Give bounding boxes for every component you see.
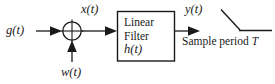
label-input-signal: g(t) (6, 24, 24, 37)
arrowhead-input-g (50, 26, 62, 36)
sampling-switch-arm (221, 10, 240, 31)
filter-block-line3: h(t) (124, 43, 154, 57)
block-diagram: g(t) x(t) w(t) y(t) Linear Filter h(t) S… (0, 0, 275, 84)
label-sample-period-symbol: T (252, 35, 258, 47)
label-filter-input: x(t) (81, 3, 98, 16)
label-noise: w(t) (61, 66, 81, 79)
label-filter-output: y(t) (185, 3, 202, 16)
label-sample-period-text: Sample period (182, 35, 252, 47)
filter-block-text: Linear Filter h(t) (124, 16, 154, 57)
label-sample-period: Sample period T (182, 36, 258, 48)
arrowhead-noise-w (67, 41, 77, 53)
filter-block-line2: Filter (124, 30, 154, 44)
arrowhead-filter-input-x (105, 26, 117, 36)
filter-block-line1: Linear (124, 16, 154, 30)
